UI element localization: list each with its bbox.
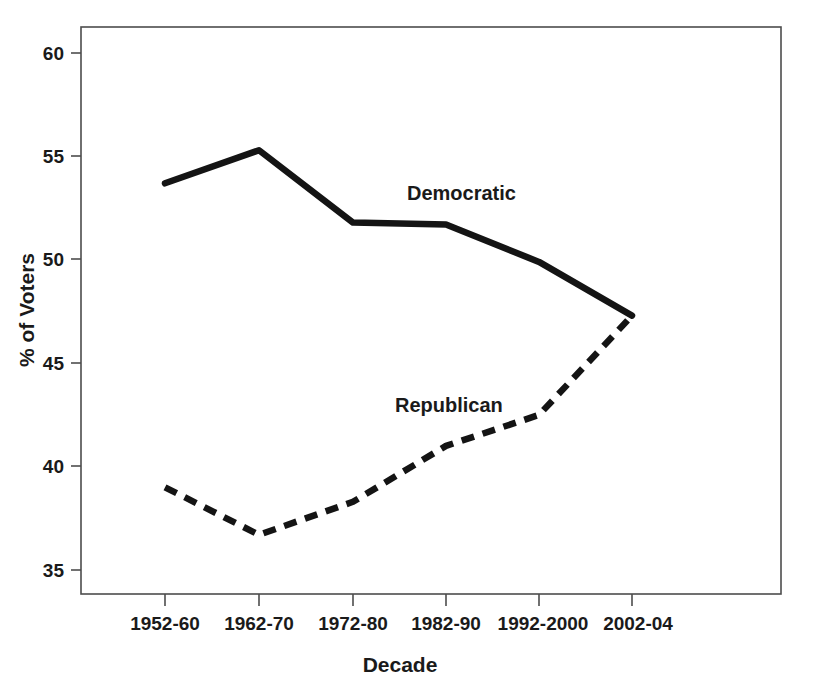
series-label-democratic: Democratic <box>407 182 516 204</box>
x-tick-label: 1962-70 <box>224 613 294 634</box>
x-tick-label: 1992-2000 <box>498 613 589 634</box>
y-tick-label: 60 <box>43 43 64 64</box>
chart-container: 60 55 50 45 40 35 % of Voters 1952-60 19… <box>0 0 815 688</box>
y-axis-title: % of Voters <box>15 253 38 367</box>
y-tick-label: 40 <box>43 456 64 477</box>
chart-background <box>0 0 815 688</box>
x-tick-label: 2002-04 <box>603 613 673 634</box>
x-tick-label: 1972-80 <box>318 613 388 634</box>
y-tick-label: 35 <box>43 560 65 581</box>
x-tick-label: 1952-60 <box>130 613 200 634</box>
line-chart: 60 55 50 45 40 35 % of Voters 1952-60 19… <box>0 0 815 688</box>
y-tick-label: 55 <box>43 146 65 167</box>
y-tick-label: 45 <box>43 353 65 374</box>
x-tick-label: 1982-90 <box>411 613 481 634</box>
y-tick-label: 50 <box>43 249 64 270</box>
series-label-republican: Republican <box>395 394 503 416</box>
x-axis-title: Decade <box>363 653 438 676</box>
